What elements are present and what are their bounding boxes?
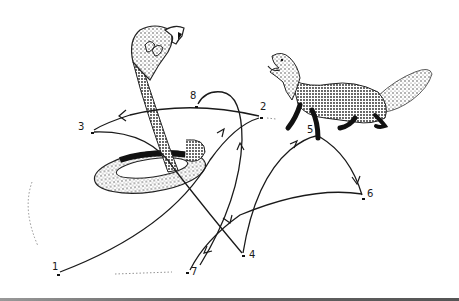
- path-5-to-6: [320, 137, 362, 195]
- arrowhead-icon: [119, 110, 126, 121]
- path-7-to-8: [198, 92, 242, 265]
- point-label-6: 6: [367, 189, 373, 199]
- point-label-5: 5: [307, 125, 313, 135]
- faint-dotted-marks: [28, 118, 276, 274]
- diagram-canvas: 1 2 3 4 5 6 7 8: [0, 0, 459, 301]
- point-label-7: 7: [191, 267, 197, 277]
- point-label-3: 3: [78, 122, 84, 132]
- diagram-svg: [0, 0, 459, 301]
- cobra-illustration: [92, 26, 208, 200]
- point-label-2: 2: [260, 102, 266, 112]
- arrowhead-icon: [237, 143, 244, 150]
- point-label-1: 1: [52, 262, 58, 272]
- path-6-to-7: [190, 192, 362, 270]
- point-label-4: 4: [249, 250, 255, 260]
- path-2-to-3: [94, 108, 259, 130]
- path-4-to-5: [243, 136, 316, 253]
- arrowhead-icon: [217, 129, 224, 137]
- point-label-8: 8: [190, 91, 196, 101]
- fox-illustration: [268, 53, 432, 138]
